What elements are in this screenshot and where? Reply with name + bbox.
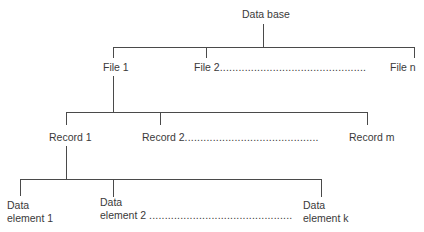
database-hierarchy-diagram: Data base File 1 File 2.................…: [0, 0, 424, 232]
connector-file-1-stem: [113, 76, 114, 113]
connector-record-2: [160, 112, 161, 125]
data-element-ellipsis: ........................................…: [149, 209, 292, 221]
connector-root-stem: [263, 24, 264, 47]
node-data-base: Data base: [242, 8, 290, 21]
data-element-k-line2: element k: [303, 212, 349, 225]
data-element-k-line1: Data: [303, 199, 349, 212]
node-file-1: File 1: [103, 61, 129, 74]
file-ellipsis: ........................................…: [220, 61, 367, 73]
connector-data-element-k: [321, 179, 322, 197]
node-file-n: File n: [390, 61, 416, 74]
file-2-label: File 2: [194, 61, 220, 73]
data-element-1-line1: Data: [7, 199, 53, 212]
node-file-2: File 2..................................…: [194, 61, 366, 74]
connector-data-element-1: [20, 179, 21, 196]
connector-record-1-stem: [66, 146, 67, 180]
data-element-2-line2: element 2: [100, 209, 146, 221]
connector-file-2: [206, 47, 207, 58]
connector-data-element-2: [113, 179, 114, 197]
node-record-1: Record 1: [49, 131, 92, 144]
record-ellipsis: ........................................…: [185, 131, 319, 143]
connector-level1-bar: [113, 47, 415, 48]
data-element-1-line2: element 1: [7, 212, 53, 225]
node-record-2: Record 2................................…: [142, 131, 319, 144]
record-2-label: Record 2: [142, 131, 185, 143]
node-data-element-2: Data element 2 .........................…: [100, 196, 292, 222]
data-element-2-line1: Data: [100, 196, 292, 209]
connector-level2-bar: [66, 112, 368, 113]
connector-file-1: [113, 47, 114, 58]
connector-record-m: [367, 112, 368, 125]
connector-record-1: [66, 112, 67, 125]
data-element-2-line2-row: element 2 ..............................…: [100, 209, 292, 222]
connector-file-n: [414, 47, 415, 58]
node-data-element-k: Data element k: [303, 199, 349, 225]
node-data-element-1: Data element 1: [7, 199, 53, 225]
node-record-m: Record m: [349, 131, 395, 144]
connector-level3-bar: [20, 179, 322, 180]
